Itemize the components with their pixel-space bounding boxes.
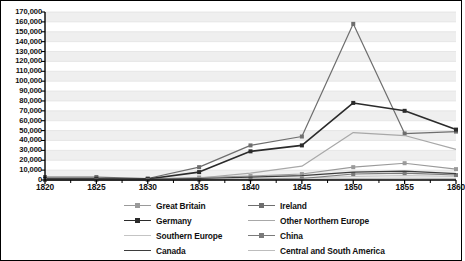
y-axis-tick-label: 40,000 <box>19 136 42 144</box>
data-point-marker <box>300 135 304 139</box>
data-point-marker <box>403 109 407 113</box>
grid-band <box>45 12 456 22</box>
legend-item-label: Central and South America <box>280 246 385 256</box>
x-axis-tick-label: 1835 <box>190 182 208 192</box>
y-axis-tick-label: 10,000 <box>19 166 42 174</box>
data-point-marker <box>197 165 201 169</box>
y-axis-tick-label: 30,000 <box>19 146 42 154</box>
data-point-marker <box>249 149 253 153</box>
legend-marker-icon <box>135 203 140 208</box>
legend-swatch-icon <box>248 245 275 256</box>
x-axis-tick-label: 1840 <box>241 182 259 192</box>
y-axis-tick-label: 60,000 <box>19 117 42 125</box>
chart-legend: Great BritainIrelandGermanyOther Norther… <box>1 197 463 261</box>
y-axis-tick-label: 70,000 <box>19 107 42 115</box>
x-axis: 182018251830183518401845185018551860 <box>1 182 463 196</box>
legend-swatch-icon <box>248 200 275 211</box>
plot-canvas <box>1 1 463 193</box>
y-axis-tick-label: 110,000 <box>16 67 42 75</box>
x-axis-tick-label: 1860 <box>447 182 465 192</box>
legend-item-label: Canada <box>156 246 186 256</box>
x-axis-tick-label: 1850 <box>344 182 362 192</box>
y-axis-tick-label: 140,000 <box>15 38 42 46</box>
grid-band <box>45 71 456 81</box>
grid-band <box>45 52 456 62</box>
y-axis-tick-label: 50,000 <box>19 127 42 135</box>
data-point-marker <box>454 167 458 171</box>
legend-item-great-britain[interactable]: Great Britain <box>124 199 205 212</box>
y-axis-tick-label: 160,000 <box>15 18 42 26</box>
legend-marker-icon <box>259 233 264 238</box>
legend-item-southern-europe[interactable]: Southern Europe <box>124 229 222 242</box>
y-axis-tick-label: 100,000 <box>15 77 42 85</box>
legend-item-label: Other Northern Europe <box>280 216 369 226</box>
data-point-marker <box>454 128 458 132</box>
legend-item-canada[interactable]: Canada <box>124 244 186 257</box>
y-axis-tick-label: 80,000 <box>19 97 42 105</box>
y-axis-tick-label: 150,000 <box>15 28 42 36</box>
grid-band <box>45 32 456 42</box>
legend-item-label: Southern Europe <box>156 231 222 241</box>
legend-line-icon <box>124 250 151 251</box>
x-axis-tick-label: 1825 <box>87 182 105 192</box>
legend-line-icon <box>248 250 275 251</box>
y-axis-tick-label: 130,000 <box>15 48 42 56</box>
legend-item-ireland[interactable]: Ireland <box>248 199 307 212</box>
legend-item-germany[interactable]: Germany <box>124 214 192 227</box>
y-axis-tick-label: 170,000 <box>15 8 42 16</box>
y-axis: 170,000160,000150,000140,000130,000120,0… <box>1 12 45 180</box>
x-axis-tick-label: 1855 <box>396 182 414 192</box>
legend-marker-icon <box>259 203 264 208</box>
y-axis-tick-label: 120,000 <box>15 57 42 65</box>
legend-item-label: China <box>280 231 303 241</box>
legend-marker-icon <box>135 218 140 223</box>
x-axis-tick-label: 1845 <box>293 182 311 192</box>
legend-item-label: Germany <box>156 216 192 226</box>
y-axis-tick-label: 20,000 <box>19 156 42 164</box>
y-axis-tick-label: 90,000 <box>19 87 42 95</box>
legend-line-icon <box>124 235 151 236</box>
data-point-marker <box>197 170 201 174</box>
legend-swatch-icon <box>124 215 151 226</box>
data-point-marker <box>351 101 355 105</box>
legend-item-other-northern-europe[interactable]: Other Northern Europe <box>248 214 369 227</box>
data-point-marker <box>351 165 355 169</box>
legend-swatch-icon <box>124 230 151 241</box>
legend-line-icon <box>248 220 275 221</box>
plot-area: 170,000160,000150,000140,000130,000120,0… <box>1 1 463 193</box>
data-point-marker <box>300 143 304 147</box>
legend-item-china[interactable]: China <box>248 229 303 242</box>
legend-item-central-and-south-america[interactable]: Central and South America <box>248 244 385 257</box>
x-axis-tick-label: 1820 <box>36 182 54 192</box>
legend-swatch-icon <box>248 230 275 241</box>
legend-swatch-icon <box>248 215 275 226</box>
legend-item-label: Great Britain <box>156 201 205 211</box>
legend-swatch-icon <box>124 245 151 256</box>
x-axis-tick-label: 1830 <box>139 182 157 192</box>
legend-swatch-icon <box>124 200 151 211</box>
data-point-marker <box>403 161 407 165</box>
data-point-marker <box>351 22 355 26</box>
legend-item-label: Ireland <box>280 201 307 211</box>
data-point-marker <box>249 143 253 147</box>
grid-band <box>45 91 456 101</box>
